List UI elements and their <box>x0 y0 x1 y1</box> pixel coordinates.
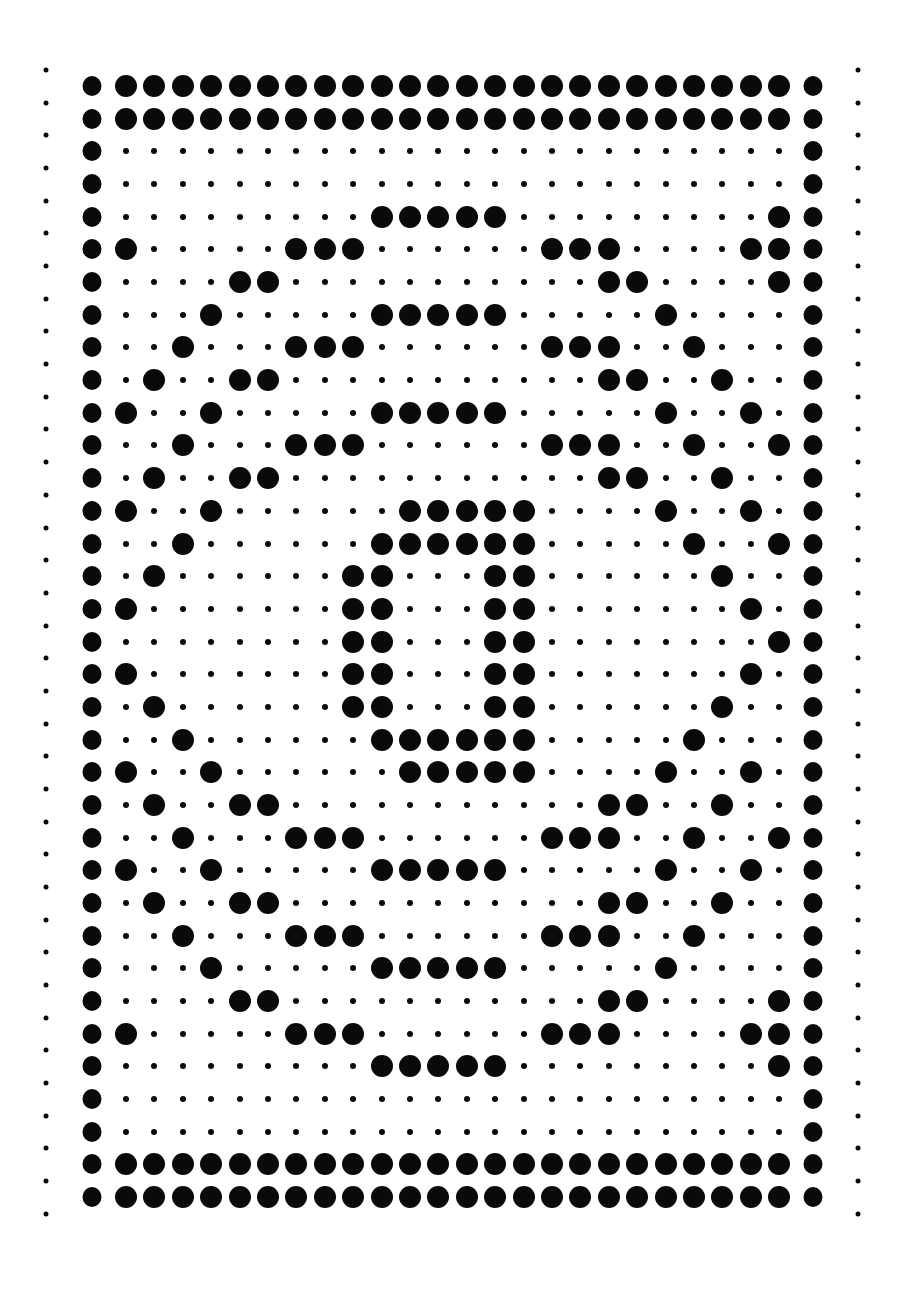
edge-dot <box>44 721 49 726</box>
large-dot <box>229 990 251 1012</box>
large-dot <box>683 729 705 751</box>
small-dot <box>521 998 527 1004</box>
small-dot <box>663 1031 669 1037</box>
large-dot <box>314 827 336 849</box>
large-dot <box>115 75 137 97</box>
small-dot <box>151 835 157 841</box>
small-dot <box>606 1096 612 1102</box>
small-dot <box>464 1096 470 1102</box>
border-dot <box>83 893 102 913</box>
small-dot <box>691 410 697 416</box>
small-dot <box>549 802 555 808</box>
small-dot <box>634 867 640 873</box>
small-dot <box>237 1063 243 1069</box>
small-dot <box>464 1031 470 1037</box>
border-dot <box>804 1187 823 1207</box>
edge-dot <box>856 362 861 367</box>
small-dot <box>776 475 782 481</box>
border-dot <box>83 860 102 880</box>
small-dot <box>237 867 243 873</box>
small-dot <box>719 769 725 775</box>
small-dot <box>208 802 214 808</box>
small-dot <box>521 1031 527 1037</box>
large-dot <box>456 206 478 228</box>
small-dot <box>237 1096 243 1102</box>
large-dot <box>768 108 790 130</box>
small-dot <box>776 508 782 514</box>
small-dot <box>748 835 754 841</box>
small-dot <box>293 900 299 906</box>
small-dot <box>379 377 385 383</box>
small-dot <box>407 246 413 252</box>
small-dot <box>407 1031 413 1037</box>
edge-dot <box>44 394 49 399</box>
small-dot <box>719 344 725 350</box>
small-dot <box>663 1096 669 1102</box>
small-dot <box>719 867 725 873</box>
small-dot <box>350 214 356 220</box>
large-dot <box>200 859 222 881</box>
edge-dot <box>44 754 49 759</box>
small-dot <box>350 508 356 514</box>
border-dot <box>83 1122 102 1142</box>
small-dot <box>663 1063 669 1069</box>
large-dot <box>143 75 165 97</box>
small-dot <box>322 312 328 318</box>
large-dot <box>768 1023 790 1045</box>
large-dot <box>598 369 620 391</box>
small-dot <box>180 246 186 252</box>
border-dot <box>804 370 823 390</box>
edge-dot <box>856 264 861 269</box>
small-dot <box>151 410 157 416</box>
small-dot <box>464 344 470 350</box>
small-dot <box>208 148 214 154</box>
large-dot <box>513 75 535 97</box>
small-dot <box>719 737 725 743</box>
large-dot <box>172 729 194 751</box>
large-dot <box>115 500 137 522</box>
small-dot <box>719 442 725 448</box>
small-dot <box>663 606 669 612</box>
small-dot <box>492 279 498 285</box>
edge-dot <box>44 983 49 988</box>
large-dot <box>399 108 421 130</box>
large-dot <box>598 108 620 130</box>
small-dot <box>350 181 356 187</box>
large-dot <box>569 108 591 130</box>
small-dot <box>719 410 725 416</box>
border-dot <box>83 1024 102 1044</box>
large-dot <box>456 533 478 555</box>
small-dot <box>577 214 583 220</box>
small-dot <box>663 377 669 383</box>
small-dot <box>776 573 782 579</box>
large-dot <box>285 336 307 358</box>
large-dot <box>768 631 790 653</box>
large-dot <box>371 75 393 97</box>
small-dot <box>350 737 356 743</box>
border-dot <box>83 991 102 1011</box>
small-dot <box>521 279 527 285</box>
small-dot <box>549 1063 555 1069</box>
large-dot <box>740 108 762 130</box>
large-dot <box>711 892 733 914</box>
small-dot <box>549 1096 555 1102</box>
small-dot <box>293 802 299 808</box>
large-dot <box>598 990 620 1012</box>
small-dot <box>151 998 157 1004</box>
border-dot <box>804 109 823 129</box>
large-dot <box>569 75 591 97</box>
large-dot <box>115 1153 137 1175</box>
small-dot <box>265 508 271 514</box>
small-dot <box>322 606 328 612</box>
small-dot <box>322 573 328 579</box>
small-dot <box>719 312 725 318</box>
large-dot <box>711 565 733 587</box>
small-dot <box>265 671 271 677</box>
small-dot <box>151 1031 157 1037</box>
small-dot <box>350 377 356 383</box>
border-dot <box>804 239 823 259</box>
small-dot <box>521 1063 527 1069</box>
small-dot <box>293 1063 299 1069</box>
small-dot <box>435 1129 441 1135</box>
small-dot <box>293 737 299 743</box>
